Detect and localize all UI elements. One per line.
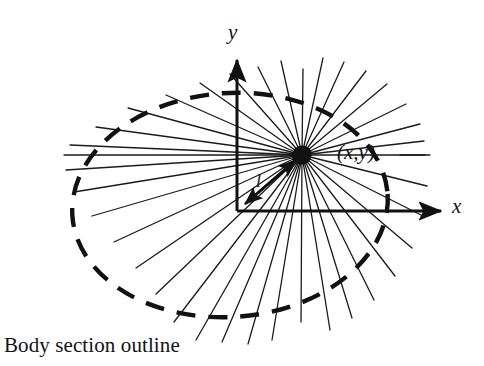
ray [222,155,302,342]
ray [66,155,302,170]
ray [302,155,330,330]
radial-ray-bundle [64,58,427,344]
ray [281,61,302,155]
ray [302,69,303,155]
ray [114,155,302,242]
x-axis-label: x [452,196,461,217]
figure-container: y x (x,y) l Body section outline [0,0,484,366]
length-l-label: l [256,172,261,190]
y-axis-label: y [228,22,237,43]
point-xy-marker [292,146,312,165]
ray [301,155,302,322]
ray [128,108,302,155]
ray [230,74,302,155]
ray [302,155,352,318]
ray [74,155,302,192]
diagram-canvas [0,0,484,366]
ray [302,155,374,300]
ray [200,83,302,155]
ray [302,155,395,276]
figure-caption: Body section outline [4,335,180,356]
point-xy-label: (x,y) [337,142,375,163]
ray [258,67,302,155]
ray [196,155,302,340]
